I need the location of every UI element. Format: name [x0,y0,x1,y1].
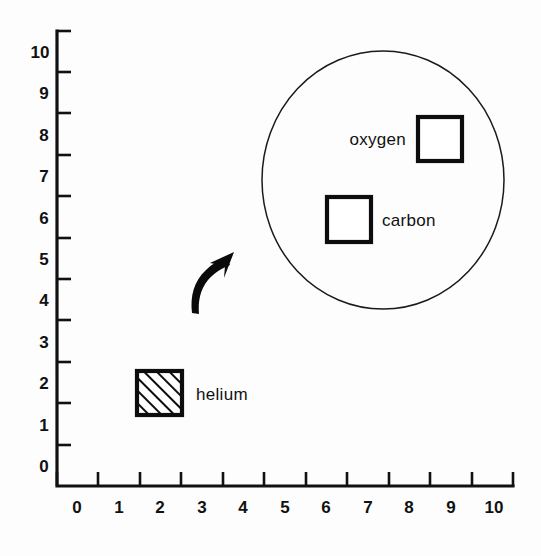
y-tick-label: 9 [39,84,48,103]
y-tick-label: 4 [39,291,49,310]
x-tick-label: 7 [363,498,372,517]
y-tick-label: 6 [39,209,48,228]
x-tick-label: 0 [72,498,81,517]
y-axis-tick-labels: 10 9 8 7 6 5 4 3 2 1 0 [31,43,50,476]
x-axis-ticks [57,472,513,486]
x-tick-label: 10 [485,498,504,517]
marker-carbon: carbon [327,197,436,242]
y-tick-label: 10 [31,43,50,62]
x-tick-label: 6 [321,498,330,517]
y-tick-label: 2 [39,374,48,393]
carbon-square-icon [327,197,371,242]
curved-arrow-icon [192,252,234,314]
oxygen-square-icon [418,117,462,161]
y-tick-label: 8 [39,126,48,145]
x-tick-label: 1 [114,498,123,517]
oxygen-label: oxygen [349,130,406,149]
y-tick-label: 1 [39,416,48,435]
marker-helium: helium [137,371,248,415]
y-tick-label: 7 [39,167,48,186]
y-tick-label: 5 [39,250,48,269]
plot-canvas: 10 9 8 7 6 5 4 3 2 1 0 0 1 2 3 4 5 6 [0,0,541,556]
x-tick-label: 2 [155,498,164,517]
x-tick-label: 8 [404,498,413,517]
y-tick-label: 0 [39,457,48,476]
axis-lines [57,31,513,486]
axis-group: 10 9 8 7 6 5 4 3 2 1 0 0 1 2 3 4 5 6 [31,31,513,517]
x-tick-label: 3 [197,498,206,517]
x-axis-tick-labels: 0 1 2 3 4 5 6 7 8 9 10 [72,498,503,517]
x-tick-label: 5 [280,498,289,517]
carbon-label: carbon [382,211,436,230]
scatter-diagram-figure: 10 9 8 7 6 5 4 3 2 1 0 0 1 2 3 4 5 6 [0,0,541,556]
grouping-circle [262,51,504,309]
y-tick-label: 3 [39,333,48,352]
helium-label: helium [196,385,248,404]
marker-oxygen: oxygen [349,117,462,161]
x-tick-label: 9 [446,498,455,517]
helium-square-icon [137,371,182,415]
x-tick-label: 4 [238,498,248,517]
y-axis-ticks [57,31,71,445]
